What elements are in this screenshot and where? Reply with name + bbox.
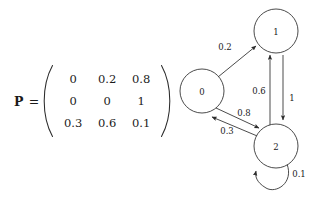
matrix-cell-r1c2: 1 [138, 96, 145, 108]
matrix-cell-r1c1: 0 [104, 96, 111, 108]
edge-label-2-to-0: 0.3 [220, 126, 234, 136]
markov-chain-figure: P = 0 0.2 0.8 0 0 1 0.3 0.6 0.1 [0, 0, 323, 203]
matrix-cell-r2c1: 0.6 [98, 118, 116, 130]
node-2[interactable]: 2 [254, 124, 298, 168]
node-2-label: 2 [273, 142, 278, 152]
matrix-symbol-P: P [14, 94, 27, 109]
edge-0-to-2: 0.8 [216, 108, 259, 128]
node-1-label: 1 [273, 27, 278, 37]
matrix-right-paren [160, 64, 171, 138]
node-1[interactable]: 1 [254, 9, 298, 53]
matrix-cell-r0c1: 0.2 [98, 74, 116, 86]
transition-matrix-equation: P = 0 0.2 0.8 0 0 1 0.3 0.6 0.1 [14, 62, 171, 140]
node-0-label: 0 [199, 87, 204, 97]
edge-2-to-0: 0.3 [212, 117, 262, 138]
edge-label-1-to-2: 1 [289, 93, 294, 103]
edge-label-0-to-2: 0.8 [237, 108, 251, 118]
matrix-cell-r1c0: 0 [70, 96, 77, 108]
edge-1-to-2: 1 [283, 55, 295, 120]
edge-label-2-to-1: 0.6 [252, 86, 266, 96]
matrix-cell-r2c2: 0.1 [132, 118, 150, 130]
equals-sign: = [27, 94, 43, 109]
matrix-cell-r0c2: 0.8 [132, 74, 150, 86]
edge-label-0-to-1: 0.2 [218, 42, 232, 52]
node-0[interactable]: 0 [180, 69, 224, 113]
matrix-left-paren [43, 64, 54, 138]
matrix-cell-r0c0: 0 [70, 74, 77, 86]
matrix-values-grid: 0 0.2 0.8 0 0 1 0.3 0.6 0.1 [54, 67, 160, 135]
matrix-cell-r2c0: 0.3 [64, 118, 82, 130]
state-transition-diagram: 0.2 0.8 0.3 0.6 1 [176, 0, 323, 203]
edge-label-2-self-loop: 0.1 [292, 169, 306, 179]
edge-2-to-1: 0.6 [252, 55, 270, 127]
edge-0-to-1: 0.2 [218, 42, 256, 77]
